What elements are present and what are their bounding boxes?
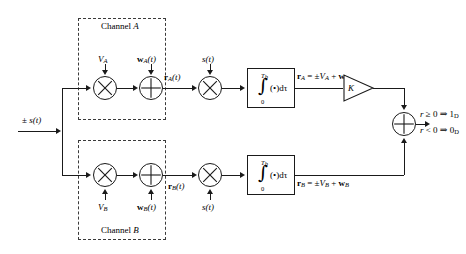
plus-circle-icon	[140, 77, 162, 99]
input-arrowhead	[56, 128, 61, 134]
integrator-a-integrand: (•)dτ	[270, 83, 287, 93]
summer-top-arrowhead	[401, 105, 407, 110]
channel-a-label-text: Channel	[101, 21, 133, 31]
integrator-b-out-wire	[295, 175, 404, 176]
channel-b-noise-arrowhead	[148, 189, 154, 194]
multiply-circle-icon	[199, 77, 221, 99]
integrator-b-integral-sign: ∫	[258, 163, 268, 182]
channel-b-out-arrowhead	[192, 172, 197, 178]
output-summer[interactable]	[392, 112, 416, 136]
channel-a-noise-time-arg: (t)	[147, 54, 156, 64]
plus-circle-icon	[140, 164, 162, 186]
channel-b-noise-label: wB(t)	[137, 203, 156, 213]
decision-hi-subscript: D	[454, 112, 459, 119]
channel-b-gain-subscript: B	[104, 205, 108, 212]
integrator-b-block[interactable]: Tb ∫ 0 (•)dτ	[247, 155, 295, 195]
decision-hi-op: ≥ 0 ⇒ 1	[424, 109, 454, 119]
summer-top-feed-wire	[404, 88, 405, 105]
channel-a-out-wire	[163, 88, 194, 89]
channel-a-label-id: A	[133, 21, 139, 31]
correlator-b-ref-time-arg: (t)	[206, 202, 215, 212]
correlator-a-to-integrator-wire	[222, 88, 242, 89]
decision-rule-low: r < 0 ⇒ 0D	[420, 126, 459, 136]
result-b-expression: rB = ±VB + wB	[297, 179, 349, 189]
channel-a-gain-arrowhead	[102, 70, 108, 75]
plus-circle-icon	[393, 113, 415, 135]
channel-b-feed-wire	[62, 175, 88, 176]
diagram-canvas: Channel A Channel B ± s(t) VA wA(t)	[0, 0, 466, 254]
channel-a-noise-arrowhead	[148, 70, 154, 75]
channel-b-box-label: Channel B	[101, 226, 139, 235]
multiply-circle-icon	[199, 164, 221, 186]
amplifier-block[interactable]: K	[343, 74, 375, 102]
channel-a-output-label: rA(t)	[164, 73, 180, 83]
result-b-equals: =	[305, 178, 315, 188]
result-a-plus: +	[329, 71, 339, 81]
integrator-a-block[interactable]: Tb ∫ 0 (•)dτ	[247, 68, 295, 108]
channel-b-noise-time-arg: (t)	[147, 202, 156, 212]
channel-a-mult-to-add-arrowhead	[133, 85, 138, 91]
amplifier-out-wire	[373, 88, 404, 89]
channel-b-output-label: rB(t)	[168, 182, 184, 192]
split-bus-vertical	[62, 88, 63, 175]
channel-b-gain-label: VB	[98, 203, 107, 213]
integrator-a-out-wire	[295, 88, 343, 89]
channel-a-dashed-box	[78, 18, 166, 120]
channel-b-out-wire	[163, 175, 194, 176]
channel-a-multiplier[interactable]	[93, 76, 117, 100]
correlator-a-ref-arrowhead	[207, 70, 213, 75]
correlator-b-ref-wire	[210, 194, 211, 200]
input-signal-label: ± s(t)	[22, 116, 41, 125]
channel-b-noise-wire	[151, 194, 152, 200]
multiply-circle-icon	[94, 164, 116, 186]
decision-rule-high: r ≥ 0 ⇒ 1D	[420, 110, 459, 120]
correlator-b-to-integrator-wire	[222, 175, 242, 176]
channel-b-gain-wire	[105, 194, 106, 200]
channel-a-feed-arrowhead	[86, 85, 91, 91]
integrator-a-inner: Tb ∫ 0 (•)dτ	[248, 69, 294, 107]
channel-b-out-time-arg: (t)	[176, 181, 185, 191]
integrator-b-integrand: (•)dτ	[270, 170, 287, 180]
channel-a-noise-label: wA(t)	[137, 55, 156, 65]
integrator-a-lower-limit: 0	[261, 98, 264, 105]
channel-a-adder[interactable]	[139, 76, 163, 100]
result-b-plus: +	[329, 178, 339, 188]
channel-a-gain-label: VA	[98, 55, 107, 65]
input-pm-sign: ±	[22, 115, 27, 125]
correlator-a-ref-time-arg: (t)	[206, 54, 215, 64]
decision-lo-subscript: D	[454, 128, 459, 135]
integrator-b-lower-limit: 0	[261, 185, 264, 192]
input-wire	[18, 131, 56, 132]
correlator-b-reference-label: s(t)	[202, 203, 214, 212]
correlator-b-multiplier[interactable]	[198, 163, 222, 187]
channel-b-gain-arrowhead	[102, 189, 108, 194]
channel-a-box-label: Channel A	[101, 22, 139, 31]
summer-bottom-arrowhead	[401, 138, 407, 143]
input-time-arg: (t)	[33, 115, 42, 125]
channel-b-label-text: Channel	[101, 225, 133, 235]
channel-b-label-id: B	[133, 225, 139, 235]
amplifier-gain-label: K	[348, 83, 354, 93]
summer-bottom-feed-wire	[404, 143, 405, 175]
correlator-b-to-integrator-arrowhead	[240, 172, 245, 178]
correlator-b-ref-arrowhead	[207, 189, 213, 194]
correlator-a-multiplier[interactable]	[198, 76, 222, 100]
integrator-a-integral-sign: ∫	[258, 76, 268, 95]
channel-b-mult-to-add-arrowhead	[133, 172, 138, 178]
correlator-a-reference-label: s(t)	[202, 55, 214, 64]
channel-a-out-time-arg: (t)	[172, 72, 181, 82]
multiply-circle-icon	[94, 77, 116, 99]
channel-a-feed-wire	[62, 88, 88, 89]
channel-b-feed-arrowhead	[86, 172, 91, 178]
channel-b-adder[interactable]	[139, 163, 163, 187]
result-a-equals: =	[305, 71, 315, 81]
channel-b-multiplier[interactable]	[93, 163, 117, 187]
integrator-b-inner: Tb ∫ 0 (•)dτ	[248, 156, 294, 194]
correlator-a-to-integrator-arrowhead	[240, 85, 245, 91]
result-b-w-subscript: B	[345, 181, 349, 188]
channel-a-gain-subscript: A	[104, 57, 108, 64]
result-a-expression: rA = ±VA + wA	[297, 72, 349, 82]
channel-a-out-arrowhead	[192, 85, 197, 91]
decision-lo-op: < 0 ⇒ 0	[424, 125, 455, 135]
